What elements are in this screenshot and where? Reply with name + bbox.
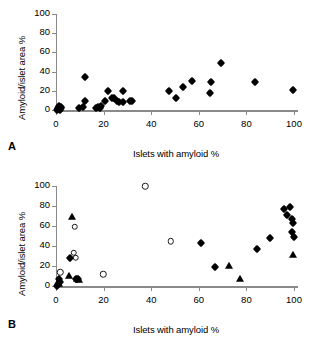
x-tick-label: 60	[179, 118, 219, 129]
x-tick-label: 100	[274, 294, 314, 305]
y-tick-label: 80	[14, 26, 50, 37]
x-tick-label: 20	[84, 294, 124, 305]
data-point-diamond	[197, 239, 205, 247]
data-point-diamond	[179, 83, 187, 91]
x-tick	[199, 287, 200, 291]
y-tick-label: 20	[14, 259, 50, 270]
y-tick	[52, 186, 56, 187]
y-tick-label: 60	[14, 219, 50, 230]
y-tick	[52, 14, 56, 15]
data-point-diamond	[217, 59, 225, 67]
data-point-diamond	[206, 77, 214, 85]
data-point-circle	[72, 254, 79, 261]
y-axis-line	[56, 14, 57, 110]
panel-a: Amyloid/islet area % 0204060801000204060…	[0, 0, 320, 172]
x-axis-label-b: Islets with amyloid %	[86, 324, 266, 335]
y-tick-label: 20	[14, 84, 50, 95]
data-point-triangle	[68, 213, 76, 220]
x-tick-label: 0	[36, 294, 76, 305]
data-point-circle	[167, 238, 174, 245]
panel-letter-b: B	[8, 318, 16, 330]
data-point-triangle	[65, 272, 73, 279]
x-tick	[104, 111, 105, 115]
x-tick-label: 20	[84, 118, 124, 129]
data-point-triangle	[75, 275, 83, 282]
data-point-diamond	[251, 78, 259, 86]
panel-letter-a: A	[8, 140, 16, 152]
x-axis-line	[56, 286, 298, 288]
x-tick-label: 100	[274, 118, 314, 129]
data-point-circle	[57, 269, 64, 276]
data-point-triangle	[225, 261, 233, 268]
y-tick-label: 0	[14, 279, 50, 290]
data-point-diamond	[289, 86, 297, 94]
plot-area-b: 020406080100020406080100	[56, 186, 294, 286]
x-tick-label: 80	[226, 118, 266, 129]
x-tick	[199, 111, 200, 115]
y-tick	[52, 72, 56, 73]
x-tick-label: 0	[36, 118, 76, 129]
y-tick-label: 80	[14, 199, 50, 210]
y-tick	[52, 246, 56, 247]
data-point-diamond	[206, 89, 214, 97]
y-tick-label: 40	[14, 239, 50, 250]
data-point-diamond	[253, 245, 261, 253]
x-tick-label: 40	[131, 294, 171, 305]
x-axis-line	[56, 110, 298, 112]
y-tick	[52, 52, 56, 53]
x-tick-label: 80	[226, 294, 266, 305]
x-tick	[294, 287, 295, 291]
data-point-diamond	[172, 93, 180, 101]
y-tick	[52, 206, 56, 207]
data-point-circle	[71, 224, 78, 231]
data-point-triangle	[236, 274, 244, 281]
y-tick-label: 40	[14, 65, 50, 76]
x-tick	[104, 287, 105, 291]
panel-b: Amyloid/islet area % 0204060801000204060…	[0, 172, 320, 354]
y-tick	[52, 266, 56, 267]
data-point-diamond	[211, 263, 219, 271]
chart-b: Amyloid/islet area % 0204060801000204060…	[0, 172, 320, 354]
data-point-circle	[142, 183, 149, 190]
x-tick-label: 60	[179, 294, 219, 305]
data-point-triangle	[55, 280, 63, 287]
plot-area-a: 020406080100020406080100	[56, 14, 294, 110]
data-point-diamond	[81, 73, 89, 81]
x-tick-label: 40	[131, 118, 171, 129]
x-axis-label-a: Islets with amyloid %	[86, 148, 266, 159]
x-tick	[246, 111, 247, 115]
x-tick	[151, 111, 152, 115]
data-point-triangle	[289, 250, 297, 257]
data-point-diamond	[119, 87, 127, 95]
chart-a: Amyloid/islet area % 0204060801000204060…	[0, 0, 320, 172]
data-point-circle	[100, 271, 107, 278]
y-tick-label: 0	[14, 103, 50, 114]
y-tick	[52, 91, 56, 92]
data-point-diamond	[265, 234, 273, 242]
y-tick	[52, 33, 56, 34]
x-tick	[246, 287, 247, 291]
data-point-diamond	[165, 87, 173, 95]
y-tick-label: 60	[14, 45, 50, 56]
y-tick-label: 100	[14, 7, 50, 18]
data-point-diamond	[188, 77, 196, 85]
data-point-diamond	[289, 219, 297, 227]
y-tick-label: 100	[14, 179, 50, 190]
y-tick	[52, 226, 56, 227]
x-tick	[151, 287, 152, 291]
x-tick	[294, 111, 295, 115]
